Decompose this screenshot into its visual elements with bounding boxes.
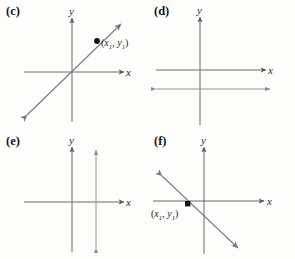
panel-f-graph bbox=[148, 130, 295, 259]
panel-f-point bbox=[185, 201, 190, 206]
panel-e-y-axis-label: y bbox=[69, 134, 74, 146]
panel-c-y-axis-label: y bbox=[69, 5, 74, 17]
panel-d: (d) x y bbox=[148, 0, 295, 129]
panel-d-y-axis-label: y bbox=[197, 4, 202, 16]
panel-e: (e) x y bbox=[0, 130, 147, 259]
panel-f-point-label: (x1, y1) bbox=[151, 208, 178, 221]
panel-e-x-axis-label: x bbox=[126, 196, 131, 208]
panel-c-graph bbox=[0, 0, 147, 129]
panel-d-x-axis-label: x bbox=[268, 64, 273, 76]
panel-f: (f) x y (x1, y1) bbox=[148, 130, 295, 259]
panel-c-point bbox=[94, 38, 100, 44]
panel-c: (c) x y (x1, y1) bbox=[0, 0, 147, 129]
math-figure-four-panels: (c) x y (x1, y1) (d) bbox=[0, 0, 295, 259]
panel-c-x-axis-label: x bbox=[126, 66, 131, 78]
panel-c-point-label: (x1, y1) bbox=[101, 37, 128, 50]
panel-f-y-axis-label: y bbox=[201, 134, 206, 146]
panel-f-x-axis-label: x bbox=[267, 195, 272, 207]
panel-e-graph bbox=[0, 130, 147, 259]
